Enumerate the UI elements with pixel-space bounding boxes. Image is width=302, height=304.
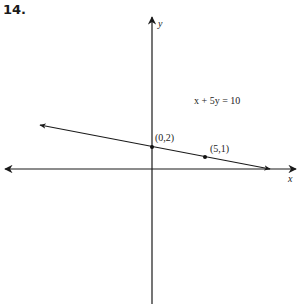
- equation-label: x + 5y = 10: [194, 95, 240, 106]
- point-5-1: [203, 155, 207, 159]
- point-label-0-2: (0,2): [155, 132, 174, 144]
- coordinate-graph: y x x + 5y = 10 (0,2) (5,1): [0, 0, 302, 304]
- x-axis-label: x: [287, 173, 293, 184]
- point-label-5-1: (5,1): [210, 143, 229, 155]
- point-0-2: [150, 145, 154, 149]
- y-axis-label: y: [157, 18, 163, 29]
